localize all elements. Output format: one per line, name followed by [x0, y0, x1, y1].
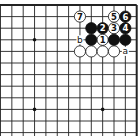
black-stone: 6 — [120, 11, 131, 22]
black-stone — [86, 23, 97, 34]
white-stone — [97, 46, 108, 57]
white-stone — [108, 46, 119, 57]
move-number: 1 — [100, 35, 106, 45]
black-stone — [120, 34, 131, 45]
black-stone — [108, 34, 119, 45]
star-point — [33, 108, 37, 112]
black-stone: 2 — [97, 23, 108, 34]
move-number: 4 — [122, 23, 128, 33]
white-stone — [74, 46, 85, 57]
go-board: 7562341 ba — [0, 0, 139, 136]
black-stone: 4 — [120, 23, 131, 34]
star-point — [33, 38, 37, 42]
move-number: 2 — [100, 23, 106, 33]
svg-text:a: a — [123, 46, 129, 56]
move-number: 6 — [122, 12, 128, 22]
white-stone — [86, 46, 97, 57]
move-number: 3 — [111, 23, 117, 33]
move-number: 5 — [111, 12, 117, 22]
black-stone — [86, 34, 97, 45]
star-point — [101, 108, 105, 112]
marker-b: b — [76, 35, 83, 45]
white-stone: 7 — [74, 11, 85, 22]
white-stone: 1 — [97, 34, 108, 45]
white-stone: 5 — [108, 11, 119, 22]
move-number: 7 — [77, 12, 83, 22]
svg-text:b: b — [77, 35, 83, 45]
marker-a: a — [122, 46, 129, 56]
white-stone: 3 — [108, 23, 119, 34]
